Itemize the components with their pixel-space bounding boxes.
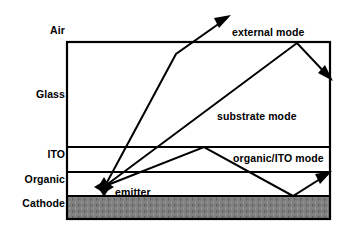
layer-label-organic: Organic	[25, 173, 65, 185]
layer-label-cathode: Cathode	[22, 197, 65, 209]
cathode-layer-fill	[68, 197, 329, 220]
mode-label-external: external mode	[232, 26, 305, 38]
layer-label-glass: Glass	[36, 88, 65, 100]
layer-label-ito: ITO	[47, 148, 65, 160]
mode-label-substrate: substrate mode	[217, 110, 297, 122]
emitter-cross-arrow	[94, 177, 114, 197]
mode-label-emitter: emitter	[115, 186, 151, 198]
layer-label-air: Air	[50, 24, 65, 36]
mode-label-organic-ito: organic/ITO mode	[233, 152, 324, 164]
